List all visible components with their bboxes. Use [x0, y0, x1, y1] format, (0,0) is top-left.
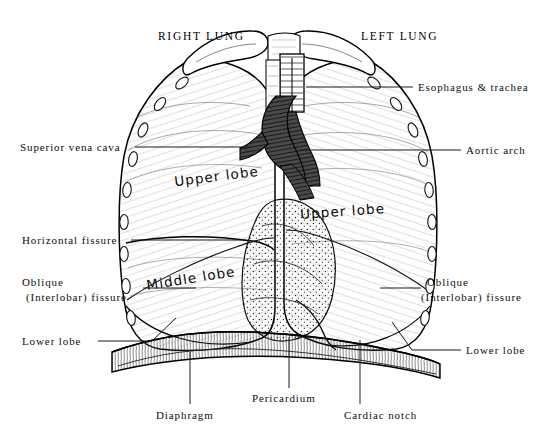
oblique-right-line1: Oblique [427, 276, 469, 288]
callout-aortic-arch: Aortic arch [466, 144, 526, 157]
title-left-lung: LEFT LUNG [361, 30, 438, 42]
oblique-left-line1: Oblique [22, 276, 64, 288]
callout-lower-lobe-right: Lower lobe [466, 344, 525, 357]
callout-oblique-fissure-left: Oblique (Interlobar) fissure [22, 275, 127, 305]
callout-cardiac-notch: Cardiac notch [344, 409, 417, 422]
callout-esophagus-trachea: Esophagus & trachea [418, 81, 529, 94]
title-right-lung: RIGHT LUNG [158, 30, 245, 42]
callout-horizontal-fissure: Horizontal fissure [22, 234, 117, 247]
lung-illustration [0, 0, 556, 448]
oblique-left-line2: (Interlobar) fissure [26, 290, 127, 305]
anatomy-figure-lungs: RIGHT LUNG LEFT LUNG Upper lobe Middle l… [0, 0, 556, 448]
callout-diaphragm: Diaphragm [156, 409, 214, 422]
callout-superior-vena-cava: Superior vena cava [20, 141, 121, 154]
callout-oblique-fissure-right: Oblique (Interlobar) fissure [427, 275, 522, 305]
oblique-right-line2: (Interlobar) fissure [421, 290, 522, 305]
callout-lower-lobe-left: Lower lobe [22, 335, 81, 348]
callout-pericardium: Pericardium [252, 392, 316, 405]
